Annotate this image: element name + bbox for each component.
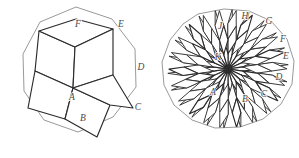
right-label-A: A xyxy=(209,87,216,97)
left-label-B: B xyxy=(80,113,86,123)
right-label-C: C xyxy=(261,89,268,99)
right-label-F: F xyxy=(279,34,286,44)
right-figure-group: ABCDEFGHJK xyxy=(162,9,294,129)
left-label-D: D xyxy=(137,62,145,72)
right-label-H: H xyxy=(241,11,250,21)
left-label-F: F xyxy=(74,19,81,29)
rhombic-tiling-figure: A B C D E F ABCDEFGHJK xyxy=(0,0,299,158)
right-rhombi-clipped xyxy=(168,9,288,129)
left-label-C: C xyxy=(135,102,142,112)
right-label-E: E xyxy=(282,51,289,61)
right-label-B: B xyxy=(242,94,248,104)
left-figure-group: A B C D E F xyxy=(23,7,145,137)
right-rhombi-group xyxy=(168,9,288,129)
right-label-K: K xyxy=(214,52,222,62)
left-label-A: A xyxy=(68,92,75,102)
left-label-E: E xyxy=(117,19,124,29)
right-label-D: D xyxy=(275,72,283,82)
figure-container: A B C D E F ABCDEFGHJK xyxy=(0,0,299,158)
right-label-G: G xyxy=(266,16,273,26)
